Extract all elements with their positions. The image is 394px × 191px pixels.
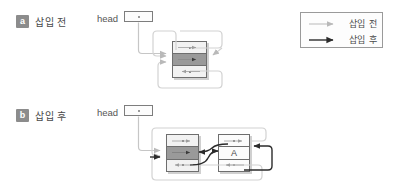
light-arrow-icon (308, 19, 342, 29)
panel-b-existing-next-to-a (190, 151, 218, 165)
linked-list-insertion-figure: a 삽입 전 head (0, 0, 394, 191)
panel-b-head-link (139, 117, 161, 151)
legend-item-after: 삽입 후 (308, 33, 377, 46)
panel-b-a-prev-to-existing (199, 144, 228, 152)
legend-label-after: 삽입 후 (349, 33, 377, 46)
legend-item-before: 삽입 전 (308, 17, 377, 30)
panel-b-a-outer-right-loop (244, 146, 272, 170)
panel-b-outer-top-loop (152, 128, 266, 156)
bold-arrow-icon (308, 35, 342, 45)
legend-label-before: 삽입 전 (349, 17, 377, 30)
